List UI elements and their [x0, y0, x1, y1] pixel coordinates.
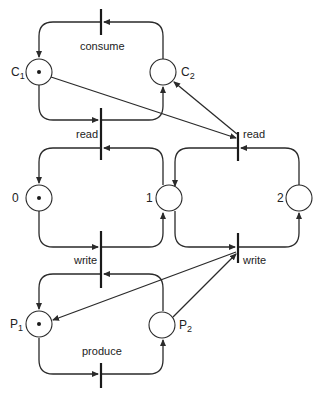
svg-text:C1: C1	[11, 65, 25, 81]
arc-read-right-to-c2	[174, 82, 237, 134]
token	[37, 70, 41, 74]
arc-write-right-to-p2	[238, 213, 299, 247]
svg-text:P1: P1	[10, 317, 23, 333]
arc-p0-to-write-left	[39, 211, 98, 247]
label-read-left: read	[76, 128, 98, 140]
arc-read-left-to-p0	[39, 148, 101, 183]
producer-loop: write produce	[39, 231, 163, 388]
arc-read-right-to-p1	[175, 148, 238, 186]
arc-p1-to-write-right	[175, 211, 235, 247]
svg-text:C2: C2	[181, 65, 195, 81]
label-read-right: read	[243, 128, 265, 140]
arc-write-left-to-p1	[101, 213, 163, 247]
arc-p1-to-read-left	[104, 148, 163, 185]
token	[37, 322, 41, 326]
label-write-left: write	[73, 254, 97, 266]
label-produce: produce	[82, 345, 122, 357]
arc-p2-to-read-right	[241, 148, 299, 185]
svg-text:P2: P2	[179, 318, 192, 334]
svg-text:1: 1	[146, 191, 153, 205]
place-2: 2	[277, 185, 312, 211]
token	[37, 196, 41, 200]
svg-text:2: 2	[277, 191, 284, 205]
consumer-loop: consume read	[39, 9, 163, 160]
label-consume: consume	[80, 40, 125, 52]
svg-text:0: 0	[12, 191, 19, 205]
place-1: 1	[146, 185, 182, 211]
arc-write-left-to-pp1	[39, 274, 101, 309]
place-0: 0	[12, 185, 52, 211]
place-c2: C2	[150, 59, 195, 85]
place-p1: P1	[10, 311, 52, 337]
petri-net-diagram: consume read read write write produce	[0, 0, 322, 396]
label-write-right: write	[242, 254, 266, 266]
place-c1: C1	[11, 59, 52, 85]
arc-pp2-to-write-left	[104, 274, 163, 311]
place-p2: P2	[149, 312, 192, 338]
